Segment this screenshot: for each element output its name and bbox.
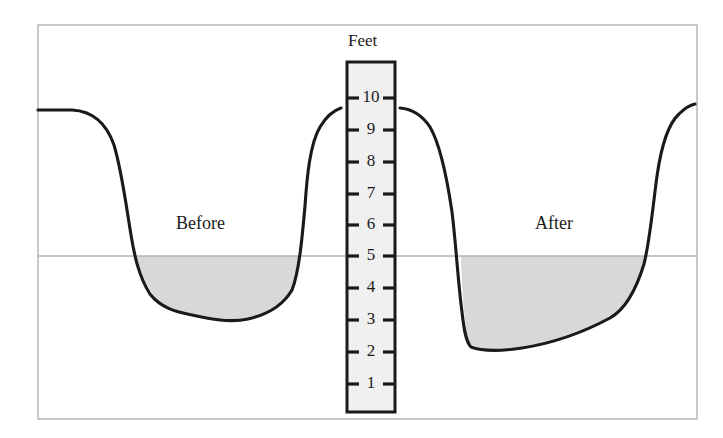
ruler-tick-label-1: 1 (347, 373, 395, 393)
ruler-unit-label: Feet (348, 31, 377, 51)
ruler-tick-label-6: 6 (347, 214, 395, 234)
ruler-tick-label-2: 2 (347, 341, 395, 361)
after-label: After (535, 213, 573, 234)
ruler-tick-label-9: 9 (347, 119, 395, 139)
stream-channel-cross-section-figure: 10 9 8 7 6 5 4 3 2 1 Feet Before After (0, 0, 723, 438)
ruler-tick-label-3: 3 (347, 309, 395, 329)
ruler-tick-label-7: 7 (347, 183, 395, 203)
before-label: Before (176, 213, 225, 234)
ruler-tick-label-5: 5 (347, 245, 395, 265)
ruler-tick-label-10: 10 (347, 87, 395, 107)
ruler-tick-label-8: 8 (347, 151, 395, 171)
ruler-tick-label-4: 4 (347, 277, 395, 297)
